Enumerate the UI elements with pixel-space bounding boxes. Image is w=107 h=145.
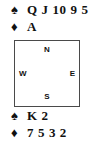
north-diamond-cards: A: [24, 19, 37, 34]
south-diamond-cards: 7 5 3 2: [24, 125, 67, 140]
spade-icon: ♠: [11, 3, 24, 16]
bridge-hand-diagram: ♠ Q J 10 9 5 ♦ A N W E S ♠ K 2 ♦ 7 5 3 2: [0, 0, 107, 145]
south-hand: ♠ K 2 ♦ 7 5 3 2: [0, 107, 107, 141]
compass-label-north: N: [15, 46, 79, 54]
north-hand: ♠ Q J 10 9 5 ♦ A: [0, 1, 107, 35]
diamond-icon: ♦: [11, 20, 24, 33]
compass-label-south: S: [15, 93, 79, 101]
compass-label-east: E: [70, 70, 75, 78]
south-spade-row: ♠ K 2: [0, 107, 107, 124]
diamond-icon: ♦: [11, 126, 24, 139]
north-diamond-row: ♦ A: [0, 18, 107, 35]
south-diamond-row: ♦ 7 5 3 2: [0, 124, 107, 141]
north-spade-row: ♠ Q J 10 9 5: [0, 1, 107, 18]
north-spade-cards: Q J 10 9 5: [24, 2, 89, 17]
compass-box: N W E S: [14, 40, 80, 107]
compass-label-west: W: [19, 70, 27, 78]
spade-icon: ♠: [11, 109, 24, 122]
south-spade-cards: K 2: [24, 108, 49, 123]
